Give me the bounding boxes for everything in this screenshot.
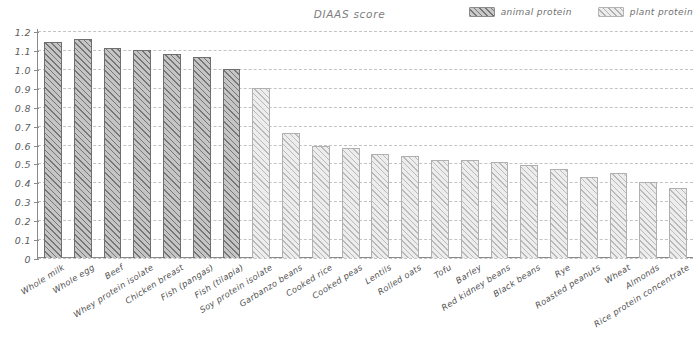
bar-chicken-breast[interactable] [163,54,181,258]
bar-beef[interactable] [104,48,122,258]
bar-cooked-peas[interactable] [342,148,360,258]
bar-black-beans[interactable] [520,165,538,258]
y-tick-label: 0.6 [15,140,31,151]
y-tick-label: 0.8 [15,102,31,113]
legend-item-animal-protein[interactable]: animal protein [469,7,572,17]
chart-legend: animal protein plant protein [469,7,693,17]
bar-rice-protein-concentrate[interactable] [669,188,687,258]
bar-cooked-rice[interactable] [312,146,330,258]
y-tick-label: 0.5 [15,159,31,170]
y-tick-label: 1.1 [15,45,31,56]
y-tick-label: 0 [25,254,31,265]
legend-label-animal: animal protein [501,7,572,17]
plot-area: 00.10.20.30.40.50.60.70.80.91.01.11.2 [38,31,693,258]
bar-fish-pangas[interactable] [193,57,211,258]
bars-group [38,31,693,258]
bar-roasted-peanuts[interactable] [580,177,598,258]
bar-rye[interactable] [550,169,568,258]
bar-almonds[interactable] [639,182,657,258]
bar-lentils[interactable] [371,154,389,258]
bar-whey-protein-isolate[interactable] [133,50,151,258]
legend-item-plant-protein[interactable]: plant protein [598,7,693,17]
bar-whole-milk[interactable] [44,42,62,258]
bar-soy-protein-isolate[interactable] [252,88,270,258]
bar-red-kidney-beans[interactable] [491,162,509,258]
bar-rolled-oats[interactable] [401,156,419,258]
x-tick-label: Rye [553,262,573,279]
bar-garbanzo-beans[interactable] [282,133,300,258]
x-axis-labels-group: Whole milkWhole eggBeefWhey protein isol… [38,258,693,341]
clipped-top-caption [120,0,420,4]
x-tick-label: Tofu [432,262,453,280]
bar-fish-tilapia[interactable] [223,69,241,258]
y-tick-label: 1.0 [15,64,31,75]
y-tick-label: 0.4 [15,178,31,189]
bar-tofu[interactable] [431,160,449,258]
legend-swatch-animal-icon [469,7,495,17]
bar-wheat[interactable] [610,173,628,258]
legend-label-plant: plant protein [630,7,693,17]
y-tick-label: 0.7 [15,121,31,132]
y-tick-label: 0.2 [15,216,31,227]
legend-swatch-plant-icon [598,7,624,17]
y-tick-label: 0.9 [15,83,31,94]
y-tick-label: 0.1 [15,235,31,246]
bar-whole-egg[interactable] [74,39,92,258]
y-tick-label: 0.3 [15,197,31,208]
y-tick-label: 1.2 [15,27,31,38]
bar-barley[interactable] [461,160,479,258]
